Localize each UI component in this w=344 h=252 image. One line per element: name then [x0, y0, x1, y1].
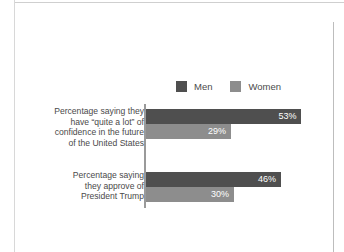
bar-group-label-approval: Percentage saying they approve of Presid… — [20, 170, 144, 202]
bar-women-approval[interactable]: 30% — [146, 187, 234, 202]
bar-value-men-approval: 46% — [258, 172, 281, 187]
bar-group-label-confidence: Percentage saying they have “quite a lot… — [20, 106, 144, 148]
bar-men-approval[interactable]: 46% — [146, 172, 281, 187]
bar-value-women-approval: 30% — [211, 187, 234, 202]
chart-figure: Men Women Percentage saying they have “q… — [0, 0, 344, 252]
bar-men-confidence[interactable]: 53% — [146, 109, 301, 124]
bar-women-confidence[interactable]: 29% — [146, 124, 231, 139]
plot-area: Percentage saying they have “quite a lot… — [0, 0, 344, 252]
bar-value-women-confidence: 29% — [208, 124, 231, 139]
bar-value-men-confidence: 53% — [278, 109, 301, 124]
